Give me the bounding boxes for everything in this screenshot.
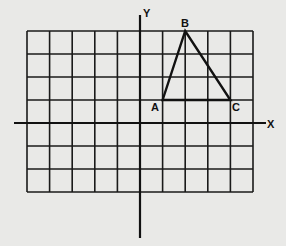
point-b-label: B <box>181 17 189 29</box>
point-a-label: A <box>151 101 159 113</box>
triangle-abc <box>163 31 231 100</box>
y-axis-label: Y <box>143 7 151 19</box>
coordinate-grid-diagram: X Y A B C <box>0 0 286 246</box>
x-axis-label: X <box>267 118 275 130</box>
point-c-label: C <box>232 101 240 113</box>
